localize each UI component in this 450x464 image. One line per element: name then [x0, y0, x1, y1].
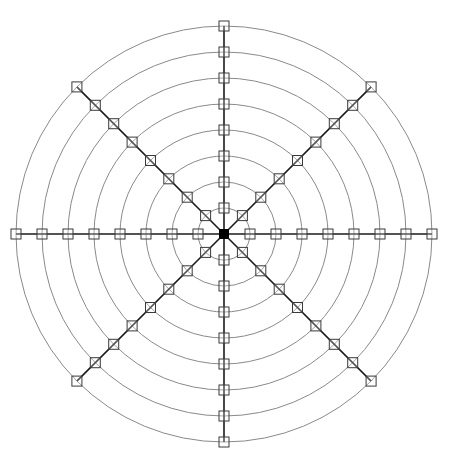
square-marker-icon — [193, 229, 203, 239]
square-marker-icon — [219, 281, 229, 291]
square-marker-icon — [219, 333, 229, 343]
square-marker-icon — [219, 385, 229, 395]
square-marker-icon — [323, 229, 333, 239]
square-marker-icon — [219, 21, 229, 31]
square-marker-icon — [274, 174, 284, 184]
square-marker-icon — [90, 100, 100, 110]
square-marker-icon — [182, 266, 192, 276]
square-marker-icon — [219, 99, 229, 109]
square-marker-icon — [219, 411, 229, 421]
square-marker-icon — [271, 229, 281, 239]
center-square-icon — [219, 229, 229, 239]
square-marker-icon — [375, 229, 385, 239]
square-marker-icon — [219, 437, 229, 447]
square-marker-icon — [127, 137, 137, 147]
square-marker-icon — [219, 255, 229, 265]
square-marker-icon — [141, 229, 151, 239]
square-marker-icon — [237, 247, 247, 257]
square-marker-icon — [219, 151, 229, 161]
square-marker-icon — [72, 376, 82, 386]
square-marker-icon — [146, 303, 156, 313]
square-marker-icon — [366, 376, 376, 386]
square-marker-icon — [37, 229, 47, 239]
square-marker-icon — [63, 229, 73, 239]
square-marker-icon — [329, 339, 339, 349]
square-marker-icon — [297, 229, 307, 239]
square-marker-icon — [72, 82, 82, 92]
square-marker-icon — [219, 203, 229, 213]
square-marker-icon — [127, 321, 137, 331]
square-marker-icon — [366, 82, 376, 92]
square-marker-icon — [146, 156, 156, 166]
square-marker-icon — [11, 229, 21, 239]
square-marker-icon — [256, 266, 266, 276]
square-marker-icon — [348, 100, 358, 110]
square-marker-icon — [311, 137, 321, 147]
square-marker-icon — [164, 284, 174, 294]
square-marker-icon — [329, 119, 339, 129]
square-marker-icon — [219, 307, 229, 317]
square-marker-icon — [256, 192, 266, 202]
square-marker-icon — [109, 119, 119, 129]
polar-grid-diagram — [0, 0, 450, 464]
square-marker-icon — [219, 47, 229, 57]
square-marker-icon — [201, 211, 211, 221]
square-marker-icon — [89, 229, 99, 239]
square-marker-icon — [109, 339, 119, 349]
square-marker-icon — [427, 229, 437, 239]
square-marker-icon — [348, 358, 358, 368]
square-marker-icon — [115, 229, 125, 239]
square-marker-icon — [90, 358, 100, 368]
square-marker-icon — [293, 303, 303, 313]
square-marker-icon — [219, 359, 229, 369]
center-hub — [219, 229, 229, 239]
square-marker-icon — [201, 247, 211, 257]
square-marker-icon — [349, 229, 359, 239]
square-marker-icon — [311, 321, 321, 331]
square-marker-icon — [219, 73, 229, 83]
square-marker-icon — [182, 192, 192, 202]
square-marker-icon — [167, 229, 177, 239]
square-marker-icon — [219, 125, 229, 135]
square-marker-icon — [401, 229, 411, 239]
square-marker-icon — [164, 174, 174, 184]
square-marker-icon — [237, 211, 247, 221]
square-marker-icon — [293, 156, 303, 166]
square-marker-icon — [274, 284, 284, 294]
square-marker-icon — [219, 177, 229, 187]
square-marker-icon — [245, 229, 255, 239]
